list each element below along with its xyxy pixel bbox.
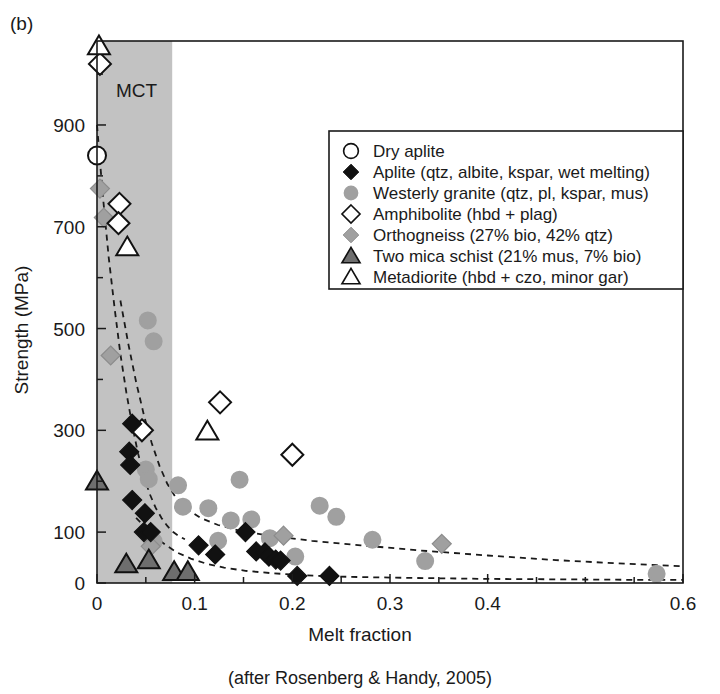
plot-area: MCT 00.10.20.30.40.6 0100300500700900 — [53, 36, 696, 614]
figure-panel-b: (b) MCT 00.10.20.30.40.6 010030050070090… — [0, 0, 720, 694]
y-tick-label: 0 — [74, 573, 85, 594]
x-tick-label: 0.6 — [670, 593, 696, 614]
x-tick-label: 0.4 — [474, 593, 501, 614]
x-tick-label: 0 — [92, 593, 103, 614]
data-point-circle-filled — [140, 312, 156, 328]
legend-item-label: Aplite (qtz, albite, kspar, wet melting) — [373, 163, 650, 182]
data-point-diamond-open — [281, 444, 303, 466]
x-axis-title: Melt fraction — [308, 624, 411, 645]
data-point-diamond-gray — [432, 534, 451, 553]
y-axis-tick-labels: 0100300500700900 — [53, 115, 85, 594]
legend-item-label: Amphibolite (hbd + plag) — [373, 205, 558, 224]
data-point-circle-filled — [146, 333, 162, 349]
legend-item[interactable]: Westerly granite (qtz, pl, kspar, mus) — [344, 184, 648, 203]
data-point-diamond-filled — [189, 536, 208, 555]
chart-svg: (b) MCT 00.10.20.30.40.6 010030050070090… — [0, 0, 720, 694]
data-point-circle-filled — [232, 472, 248, 488]
legend: Dry apliteAplite (qtz, albite, kspar, we… — [329, 131, 683, 289]
y-axis-title: Strength (MPa) — [11, 266, 32, 395]
data-point-diamond-open — [209, 391, 231, 413]
data-point-circle-filled — [170, 477, 186, 493]
data-point-circle-filled — [200, 500, 216, 516]
x-tick-label: 0.3 — [377, 593, 403, 614]
data-points-layer — [86, 36, 665, 586]
x-axis-tick-labels: 00.10.20.30.40.6 — [92, 593, 697, 614]
data-point-circle-filled — [312, 498, 328, 514]
legend-item-label: Westerly granite (qtz, pl, kspar, mus) — [373, 184, 649, 203]
x-tick-label: 0.1 — [181, 593, 207, 614]
data-point-circle-filled — [175, 499, 191, 515]
y-tick-label: 900 — [53, 115, 85, 136]
data-point-circle-filled — [364, 532, 380, 548]
y-tick-label: 300 — [53, 420, 85, 441]
data-point-triangle-open — [196, 421, 218, 440]
data-point-circle-filled — [649, 566, 665, 582]
legend-item[interactable]: Amphibolite (hbd + plag) — [342, 205, 558, 224]
data-point-circle-filled — [328, 509, 344, 525]
x-tick-label: 0.2 — [279, 593, 305, 614]
y-tick-label: 100 — [53, 522, 85, 543]
legend-item-label: Dry aplite — [373, 142, 445, 161]
figure-caption: (after Rosenberg & Handy, 2005) — [228, 668, 492, 688]
y-tick-label: 700 — [53, 217, 85, 238]
legend-item-label: Two mica schist (21% mus, 7% bio) — [373, 247, 641, 266]
data-point-circle-filled — [223, 512, 239, 528]
data-point-circle-filled — [141, 471, 157, 487]
panel-label: (b) — [10, 13, 33, 34]
legend-marker-circle-filled-icon — [344, 186, 357, 199]
data-point-circle-filled — [210, 533, 226, 549]
legend-item[interactable]: Metadiorite (hbd + czo, minor gar) — [342, 268, 629, 287]
legend-item-label: Orthogneiss (27% bio, 42% qtz) — [373, 226, 613, 245]
data-point-circle-filled — [287, 549, 303, 565]
legend-item-label: Metadiorite (hbd + czo, minor gar) — [373, 268, 629, 287]
y-tick-label: 500 — [53, 319, 85, 340]
data-point-circle-filled — [417, 553, 433, 569]
legend-item[interactable]: Aplite (qtz, albite, kspar, wet melting) — [343, 163, 650, 182]
legend-item[interactable]: Orthogneiss (27% bio, 42% qtz) — [343, 226, 613, 245]
mct-band-label: MCT — [116, 80, 158, 101]
legend-marker-circle-open-icon — [344, 144, 359, 159]
legend-item[interactable]: Two mica schist (21% mus, 7% bio) — [342, 247, 641, 266]
